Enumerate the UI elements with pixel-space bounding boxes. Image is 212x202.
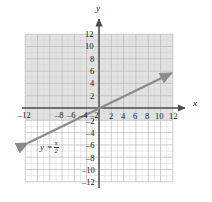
fraction-numerator: x bbox=[54, 140, 59, 147]
y-tick-label-8: 8 bbox=[90, 55, 94, 64]
y-axis-label: y bbox=[96, 4, 100, 13]
y-tick-label-4: 4 bbox=[90, 79, 94, 88]
x-tick-label-4: 4 bbox=[121, 112, 125, 121]
y-tick-label-2: 2 bbox=[90, 92, 94, 101]
equation-fraction: x 2 bbox=[54, 140, 59, 155]
y-tick-label-6: 6 bbox=[90, 67, 94, 76]
x-tick-label-12: 12 bbox=[169, 112, 178, 121]
x-tick-label-10: 10 bbox=[155, 112, 164, 121]
y-tick-label-10: 10 bbox=[85, 42, 94, 51]
x-tick-label-2: 2 bbox=[109, 112, 113, 121]
fraction-denominator: 2 bbox=[54, 148, 59, 155]
y-tick-label-neg4: –4 bbox=[86, 129, 95, 138]
x-tick-label-neg8: –8 bbox=[55, 111, 64, 120]
y-tick-label-neg6: –6 bbox=[86, 141, 95, 150]
x-tick-label-neg6: –6 bbox=[67, 111, 76, 120]
graph-canvas bbox=[0, 0, 212, 202]
y-tick-label-neg12: –12 bbox=[82, 178, 95, 187]
coordinate-plane-figure: y x –12 –8 –6 –4 –2 2 4 6 8 10 12 12 10 … bbox=[0, 0, 212, 202]
y-tick-label-neg2: –2 bbox=[86, 117, 95, 126]
equation-annotation: y = x 2 bbox=[40, 140, 59, 155]
equation-lhs: y bbox=[40, 143, 44, 152]
y-tick-label-neg8: –8 bbox=[86, 154, 95, 163]
x-tick-label-neg12: –12 bbox=[18, 111, 31, 120]
x-axis-label: x bbox=[193, 99, 197, 108]
x-tick-label-6: 6 bbox=[133, 112, 137, 121]
equation-equals-sign: = bbox=[47, 143, 52, 152]
y-tick-label-neg10: –10 bbox=[82, 166, 95, 175]
y-tick-label-12: 12 bbox=[85, 30, 94, 39]
x-tick-label-8: 8 bbox=[145, 112, 149, 121]
